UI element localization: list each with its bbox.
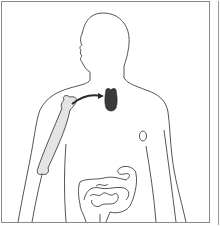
right-arm-inner-line (164, 130, 176, 222)
left-torso-line (65, 144, 67, 222)
arrow-head-icon (98, 93, 104, 99)
spleen-node (140, 131, 147, 141)
intestines (79, 166, 137, 222)
humerus-bone (37, 96, 76, 175)
body-outline (18, 13, 186, 222)
right-torso-line (146, 146, 156, 222)
thymus (105, 89, 117, 112)
anatomy-diagram (0, 0, 221, 227)
